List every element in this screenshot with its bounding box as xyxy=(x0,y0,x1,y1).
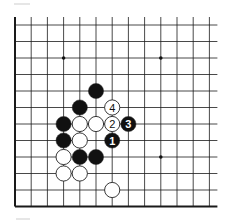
white-stone-circle xyxy=(56,149,71,164)
black-stone-circle xyxy=(72,100,87,115)
white-stone xyxy=(72,133,87,148)
white-stone xyxy=(56,166,71,181)
go-board: 4231 xyxy=(0,0,230,223)
white-stone-circle xyxy=(72,133,87,148)
white-stone xyxy=(105,182,120,197)
white-stone-circle xyxy=(72,166,87,181)
black-stone xyxy=(88,83,103,98)
black-stone xyxy=(56,133,71,148)
black-stone xyxy=(56,116,71,131)
move-number-label: 4 xyxy=(109,102,115,114)
white-stone xyxy=(56,149,71,164)
black-stone xyxy=(88,149,103,164)
star-point-icon xyxy=(159,155,163,159)
black-stone: 1 xyxy=(105,133,120,148)
white-stone-circle xyxy=(56,166,71,181)
black-stone: 3 xyxy=(121,116,136,131)
move-number-label: 3 xyxy=(125,118,131,130)
white-stone-circle xyxy=(72,116,87,131)
black-stone-circle xyxy=(88,149,103,164)
black-stone-circle xyxy=(56,116,71,131)
white-stone: 2 xyxy=(105,116,120,131)
white-stone: 4 xyxy=(105,100,120,115)
white-stone-circle xyxy=(105,182,120,197)
black-stone xyxy=(72,149,87,164)
move-number-label: 2 xyxy=(109,118,115,130)
white-stone xyxy=(72,166,87,181)
white-stone xyxy=(72,116,87,131)
white-stone xyxy=(88,116,103,131)
star-point-icon xyxy=(159,56,163,60)
black-stone-circle xyxy=(88,83,103,98)
move-number-label: 1 xyxy=(109,135,115,147)
black-stone-circle xyxy=(56,133,71,148)
white-stone-circle xyxy=(88,116,103,131)
black-stone xyxy=(72,100,87,115)
black-stone-circle xyxy=(72,149,87,164)
star-point-icon xyxy=(62,56,66,60)
